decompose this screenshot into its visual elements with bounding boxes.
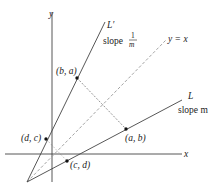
diagonal-label: y = x <box>167 34 188 44</box>
line-L-prime <box>27 22 105 182</box>
L-slope-label: slope m <box>178 105 208 115</box>
point-b-a <box>75 76 78 79</box>
point-a-b <box>124 127 127 130</box>
point-a-b-label: (a, b) <box>125 133 146 144</box>
y-axis-label: y <box>48 9 54 19</box>
point-d-c-label: (d, c) <box>21 133 41 144</box>
line-L <box>27 100 182 182</box>
L-prime-slope-denominator: m <box>129 40 135 49</box>
reflection-diagram: y x L′ slope 1 m y = x L slope m (b, a) … <box>0 0 215 191</box>
connector-ba-ab <box>77 78 126 129</box>
L-prime-label: L′ <box>106 20 115 30</box>
point-c-d <box>65 159 68 162</box>
L-prime-slope-prefix: slope <box>103 36 123 46</box>
point-b-a-label: (b, a) <box>56 66 77 77</box>
point-c-d-label: (c, d) <box>70 160 90 171</box>
connector-dc-cd <box>46 139 67 161</box>
x-axis-label: x <box>183 149 189 159</box>
line-y-equals-x <box>27 40 166 182</box>
L-label: L <box>187 91 193 101</box>
L-prime-slope-numerator: 1 <box>131 31 135 40</box>
diagram-canvas: y x L′ slope 1 m y = x L slope m (b, a) … <box>0 0 215 191</box>
point-d-c <box>44 137 47 140</box>
